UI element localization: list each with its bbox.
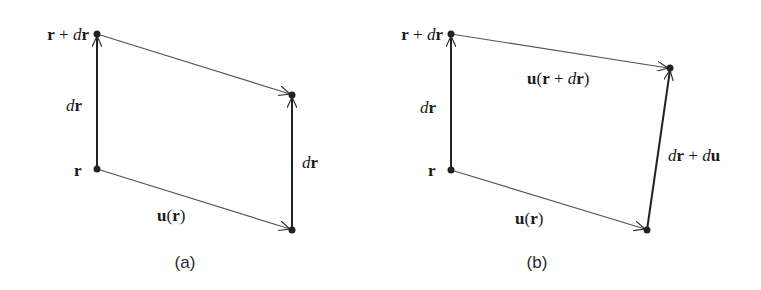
vector-dr-plus-du-b (647, 70, 670, 230)
label-dr-right-a: dr (302, 153, 319, 172)
panel-a: r + dr dr r u(r) dr (a) (47, 25, 318, 272)
figure-canvas: r + dr dr r u(r) dr (a) r + dr dr r u(r … (0, 0, 761, 290)
point-r-b (448, 167, 455, 174)
point-r-plus-dr-b (448, 31, 455, 38)
label-dr-left-b: dr (420, 98, 437, 117)
caption-a: (a) (175, 253, 196, 272)
label-r-a: r (74, 161, 82, 180)
label-dr-plus-du-b: dr + du (668, 146, 720, 165)
point-r-a (94, 166, 101, 173)
point-top-right-b (667, 65, 674, 72)
caption-b: (b) (527, 253, 548, 272)
vector-u-r-plus-dr-b (451, 34, 668, 68)
label-u-r-plus-dr-b: u(r + dr) (527, 69, 590, 88)
vector-u-r-b (451, 170, 645, 229)
label-u-r-a: u(r) (157, 206, 185, 225)
point-bottom-right-b (644, 227, 651, 234)
point-top-right-a (289, 92, 296, 99)
panel-b: r + dr dr r u(r + dr) u(r) dr + du (b) (401, 25, 720, 272)
point-r-plus-dr-a (94, 31, 101, 38)
point-bottom-right-a (289, 227, 296, 234)
vector-top-a (97, 34, 290, 94)
label-dr-left-a: dr (66, 96, 83, 115)
label-r-plus-dr-b: r + dr (401, 25, 443, 44)
label-r-plus-dr-a: r + dr (47, 25, 89, 44)
label-r-b: r (428, 161, 436, 180)
vector-u-r-a (97, 169, 290, 229)
label-u-r-b: u(r) (515, 209, 543, 228)
